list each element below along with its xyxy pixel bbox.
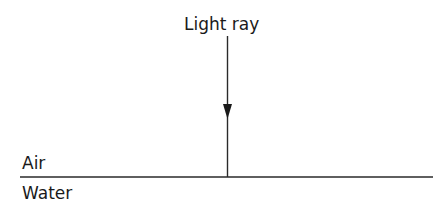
air-label: Air xyxy=(22,155,45,172)
water-label: Water xyxy=(22,185,72,202)
light-ray-label: Light ray xyxy=(184,16,259,33)
arrowhead-icon xyxy=(223,104,232,119)
